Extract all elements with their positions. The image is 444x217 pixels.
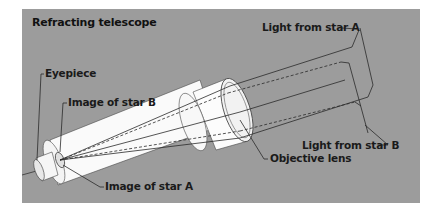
diagram-title: Refracting telescope <box>32 16 157 29</box>
label-light-from-star-b: Light from star B <box>302 139 399 151</box>
label-image-of-star-b: Image of star B <box>68 96 156 108</box>
label-eyepiece: Eyepiece <box>45 67 96 79</box>
telescope-illustration <box>0 0 444 217</box>
label-light-from-star-a: Light from star A <box>262 21 359 33</box>
label-image-of-star-a: Image of star A <box>105 180 193 192</box>
label-objective-lens: Objective lens <box>270 152 351 164</box>
